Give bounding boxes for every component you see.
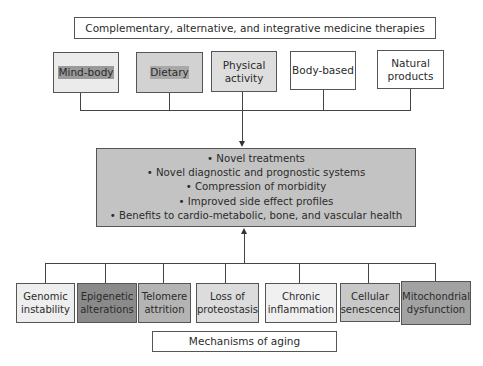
mechanism-mitochondrial-dysfunction: Mitochondrial dysfunction <box>401 281 471 325</box>
connector-line <box>45 263 436 264</box>
connector-line <box>410 89 411 111</box>
mechanism-label: Telomere attrition <box>141 290 188 316</box>
mechanism-epigenetic-alterations: Epigenetic alterations <box>77 283 137 323</box>
connector-line <box>163 263 164 283</box>
mechanism-label: Mitochondrial dysfunction <box>402 290 470 316</box>
connector-line <box>435 263 436 281</box>
connector-line <box>368 263 369 283</box>
connector-line <box>323 90 324 111</box>
connector-line <box>80 93 81 111</box>
connector-line <box>169 93 170 111</box>
connector-line <box>225 263 226 283</box>
connector-line <box>45 263 46 283</box>
connector-line <box>80 110 411 111</box>
therapy-natural-products: Natural products <box>377 50 444 89</box>
outcomes-box: • Novel treatments • Novel diagnostic an… <box>96 148 416 227</box>
connector-line <box>242 92 243 142</box>
mechanisms-of-aging-title-text: Mechanisms of aging <box>189 335 300 348</box>
cam-therapies-title-text: Complementary, alternative, and integrat… <box>85 22 424 35</box>
connector-line <box>105 263 106 283</box>
mechanism-label: Loss of proteostasis <box>197 290 258 316</box>
mechanism-label: Epigenetic alterations <box>80 290 134 316</box>
mechanism-label: Chronic inflammation <box>268 290 334 316</box>
therapy-mind-body: Mind-body <box>53 52 119 93</box>
therapy-body-based: Body-based <box>290 51 356 90</box>
outcome-item: • Benefits to cardio-metabolic, bone, an… <box>110 209 402 223</box>
outcome-item: • Improved side effect profiles <box>179 195 334 209</box>
mechanism-telomere-attrition: Telomere attrition <box>138 283 191 323</box>
cam-therapies-title: Complementary, alternative, and integrat… <box>74 17 436 39</box>
mechanism-genomic-instability: Genomic instability <box>16 283 75 323</box>
therapy-physical-activity: Physical activity <box>211 51 277 92</box>
mechanism-cellular-senescence: Cellular senescence <box>340 283 400 322</box>
therapy-label: Mind-body <box>58 66 113 79</box>
connector-line <box>299 263 300 283</box>
mechanisms-of-aging-title: Mechanisms of aging <box>152 331 337 352</box>
mechanism-chronic-inflammation: Chronic inflammation <box>265 283 337 323</box>
arrow-down-icon <box>239 141 245 147</box>
outcome-item: • Novel diagnostic and prognostic system… <box>147 166 365 180</box>
therapy-label: Dietary <box>150 66 189 79</box>
connector-line <box>244 233 245 263</box>
therapy-dietary: Dietary <box>136 52 203 93</box>
therapy-label: Body-based <box>292 64 354 77</box>
therapy-label: Physical activity <box>220 59 268 85</box>
outcome-item: • Compression of morbidity <box>186 180 327 194</box>
therapy-label: Natural products <box>386 57 435 83</box>
mechanism-label: Cellular senescence <box>341 290 400 316</box>
mechanism-label: Genomic instability <box>21 290 70 316</box>
mechanism-loss-of-proteostasis: Loss of proteostasis <box>196 283 259 323</box>
outcome-item: • Novel treatments <box>207 152 305 166</box>
